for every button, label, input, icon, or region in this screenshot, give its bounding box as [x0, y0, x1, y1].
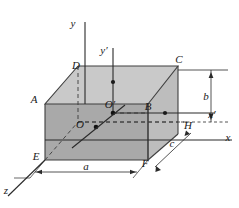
dim-a-label: a [83, 160, 89, 172]
dim-a-arrow-left [36, 170, 42, 175]
parallelepiped-diagram: y y′ x x′ z A B C D E F H O O′ a b c [0, 0, 239, 208]
axis-xprime-label: x′ [207, 108, 216, 120]
dim-b-arrow-top [209, 72, 214, 78]
vertex-C-label: C [175, 53, 183, 65]
point-yprime-marker [111, 80, 115, 84]
vertex-H-label: H [183, 119, 193, 131]
vertex-A-label: A [30, 93, 38, 105]
vertex-F-label: F [141, 157, 149, 169]
origin-O-label: O [76, 118, 84, 130]
front-face [45, 104, 148, 160]
dim-c-label: c [170, 137, 175, 149]
dim-c-arrow-lower [155, 166, 161, 172]
axis-z-label: z [3, 184, 9, 196]
dim-a-ext-left [30, 160, 45, 178]
axis-x-label: x [225, 131, 231, 143]
axis-y-label: y [70, 17, 76, 29]
axis-yprime-label: y′ [99, 44, 108, 56]
vertex-D-label: D [71, 59, 80, 71]
vertex-B-label: B [145, 100, 152, 112]
figure-container: y y′ x x′ z A B C D E F H O O′ a b c [0, 0, 239, 208]
origin-Oprime-label: O′ [105, 98, 116, 110]
vertex-E-label: E [32, 150, 40, 162]
point-xprime-marker [163, 111, 167, 115]
dim-b-label: b [203, 90, 209, 102]
dim-a-arrow-right [130, 170, 136, 175]
